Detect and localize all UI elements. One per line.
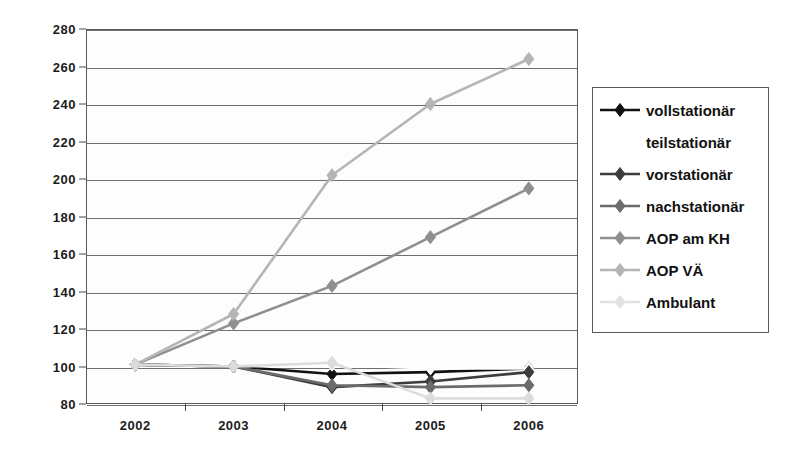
y-axis-tick-mark bbox=[79, 254, 86, 255]
x-axis-tick-label: 2006 bbox=[513, 418, 544, 433]
y-axis-tick-mark bbox=[79, 179, 86, 180]
y-axis-tick-mark bbox=[79, 329, 86, 330]
y-axis-tick-label: 200 bbox=[24, 172, 76, 187]
legend-item-vollstation-r[interactable]: vollstationär bbox=[593, 94, 768, 126]
y-axis-tick-mark bbox=[79, 216, 86, 217]
y-axis-tick-label: 80 bbox=[24, 397, 76, 412]
legend-item-ambulant[interactable]: Ambulant bbox=[593, 286, 768, 318]
y-axis-tick-label: 160 bbox=[24, 247, 76, 262]
gridline bbox=[87, 293, 577, 294]
y-axis-tick-mark bbox=[79, 104, 86, 105]
y-axis-tick-label: 280 bbox=[24, 22, 76, 37]
gridline bbox=[87, 368, 577, 369]
x-axis-tick-mark bbox=[382, 403, 383, 411]
x-axis-tick-mark bbox=[284, 403, 285, 411]
x-axis-tick-label: 2005 bbox=[415, 418, 446, 433]
legend-item-vorstation-r[interactable]: vorstationär bbox=[593, 158, 768, 190]
legend-item-aop-v-[interactable]: AOP VÄ bbox=[593, 254, 768, 286]
legend-item-label: teilstationär bbox=[646, 134, 731, 151]
legend-item-label: vollstationär bbox=[646, 102, 735, 119]
legend-marker-icon bbox=[598, 228, 642, 248]
legend-item-label: AOP VÄ bbox=[646, 262, 703, 279]
x-axis-tick-label: 2003 bbox=[218, 418, 249, 433]
y-axis-tick-label: 240 bbox=[24, 97, 76, 112]
y-axis-tick-mark bbox=[79, 366, 86, 367]
legend-item-nachstation-r[interactable]: nachstationär bbox=[593, 190, 768, 222]
legend-item-teilstation-r[interactable]: teilstationär bbox=[593, 126, 768, 158]
gridline bbox=[87, 105, 577, 106]
gridline bbox=[87, 218, 577, 219]
gridline bbox=[87, 68, 577, 69]
legend-marker-icon bbox=[598, 196, 642, 216]
gridline bbox=[87, 30, 577, 31]
x-axis-tick-label: 2004 bbox=[317, 418, 348, 433]
x-axis-tick-label: 2002 bbox=[120, 418, 151, 433]
y-axis-tick-mark bbox=[79, 141, 86, 142]
legend-marker-icon bbox=[598, 292, 642, 312]
x-axis-tick-mark bbox=[481, 403, 482, 411]
y-axis-tick-mark bbox=[79, 291, 86, 292]
gridline bbox=[87, 255, 577, 256]
legend-marker-icon bbox=[598, 132, 642, 152]
gridline bbox=[87, 405, 577, 406]
legend-marker-icon bbox=[598, 260, 642, 280]
y-axis-tick-mark bbox=[79, 29, 86, 30]
x-axis-tick-mark bbox=[185, 403, 186, 411]
gridline bbox=[87, 330, 577, 331]
gridline bbox=[87, 180, 577, 181]
gridline bbox=[87, 143, 577, 144]
legend-marker-icon bbox=[598, 164, 642, 184]
legend-marker-icon bbox=[598, 100, 642, 120]
y-axis-tick-mark bbox=[79, 404, 86, 405]
plot-area bbox=[86, 29, 578, 404]
y-axis-tick-label: 140 bbox=[24, 284, 76, 299]
line-chart: 80100120140160180200220240260280 2002200… bbox=[0, 0, 807, 465]
y-axis-tick-label: 180 bbox=[24, 209, 76, 224]
legend-item-label: nachstationär bbox=[646, 198, 744, 215]
legend-item-label: vorstationär bbox=[646, 166, 733, 183]
legend-item-label: Ambulant bbox=[646, 294, 715, 311]
y-axis-tick-label: 100 bbox=[24, 359, 76, 374]
chart-legend: vollstationärteilstationärvorstationärna… bbox=[592, 87, 769, 333]
legend-item-label: AOP am KH bbox=[646, 230, 730, 247]
y-axis-tick-label: 220 bbox=[24, 134, 76, 149]
y-axis-tick-label: 260 bbox=[24, 59, 76, 74]
y-axis-tick-mark bbox=[79, 66, 86, 67]
y-axis-tick-label: 120 bbox=[24, 322, 76, 337]
legend-item-aop-am-kh[interactable]: AOP am KH bbox=[593, 222, 768, 254]
